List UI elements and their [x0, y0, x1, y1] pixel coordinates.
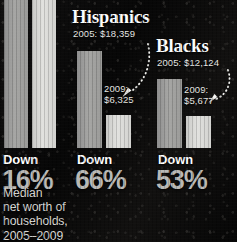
percent-blacks: 53%: [156, 165, 206, 196]
value-2009-blacks: 2009: $5,677: [184, 84, 214, 106]
value-2005-blacks: 2005: $12,124: [157, 57, 219, 68]
value-2009-hispanics: 2009: $6,325: [104, 83, 134, 105]
caption-line-3: households,: [3, 214, 89, 228]
value-2009-hispanics-year: 2009:: [104, 83, 134, 94]
bar-group1-2009: [32, 0, 56, 148]
value-2009-hispanics-amount: $6,325: [104, 94, 134, 105]
value-2005-hispanics: 2005: $18,359: [73, 28, 135, 39]
bar-hispanics-2009: [106, 115, 131, 148]
bar-group1-2005: [4, 0, 28, 148]
bar-blacks-2005: [157, 79, 182, 148]
chart-caption: Median net worth of households, 2005–200…: [3, 186, 89, 242]
value-2009-blacks-year: 2009:: [184, 84, 214, 95]
net-worth-bar-chart-infographic: Hispanics 2005: $18,359 2009: $6,325 Bla…: [0, 0, 237, 242]
caption-line-2: net worth of: [3, 200, 89, 214]
caption-line-1: Median: [3, 186, 89, 200]
caption-line-4: 2005–2009: [3, 229, 89, 242]
bar-hispanics-2005: [77, 51, 102, 148]
bar-blacks-2009: [186, 116, 211, 148]
group-title-blacks: Blacks: [156, 35, 209, 57]
group-title-hispanics: Hispanics: [72, 6, 149, 28]
value-2009-blacks-amount: $5,677: [184, 95, 214, 106]
